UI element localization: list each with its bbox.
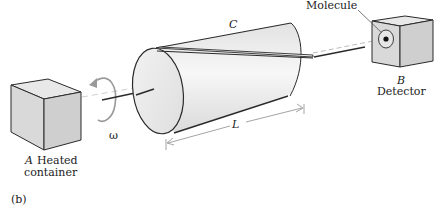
diagram: Molecule C B Detector ω L A Heated conta… <box>0 0 437 212</box>
molecule-label: Molecule <box>306 0 357 12</box>
molecule-dot <box>383 36 388 41</box>
container-label-line2: container <box>24 167 77 179</box>
panel-label: (b) <box>11 194 27 206</box>
omega-label: ω <box>109 130 118 142</box>
heated-container-cube <box>11 79 81 150</box>
length-label: L <box>232 119 239 131</box>
detector-label: Detector <box>377 86 426 98</box>
detector-cube <box>372 16 433 67</box>
rotating-cylinder <box>127 23 301 137</box>
cylinder-label: C <box>229 19 237 31</box>
exit-shaft <box>314 47 365 57</box>
